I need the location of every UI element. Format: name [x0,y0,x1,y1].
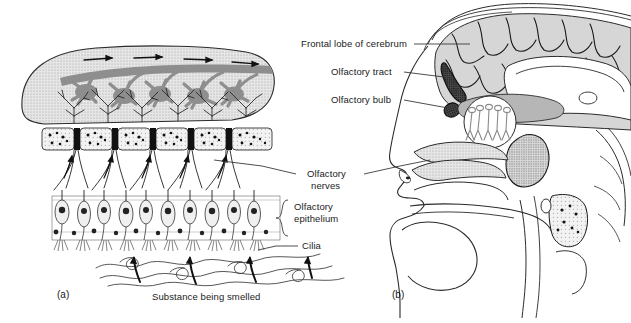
label-olfactory-epithelium-line1: Olfactory [294,201,333,212]
pharynx-wall [520,200,526,318]
cilia-group [54,240,264,251]
sphenoid-sinus [506,135,549,187]
panel-label-a: (a) [57,289,69,300]
nostril-opening [406,177,410,180]
ventricle [579,92,597,104]
figure-olfactory-system: Frontal lobe of cerebrum Olfactory tract… [0,0,631,323]
cervical-vertebrae [541,195,588,295]
nasal-conchae [412,142,508,200]
middle-concha [412,160,506,180]
tongue [402,222,477,290]
label-cilia: Cilia [302,240,321,251]
cribriform-plate [36,126,280,152]
panel-label-b: (b) [392,289,404,300]
label-olfactory-bulb: Olfactory bulb [331,94,391,105]
leader-olfactory-nerves-left-a [262,166,296,174]
leader-cilia-b [258,246,276,250]
panel-a-olfactory-bulb [22,46,344,286]
leader-olfactory-nerves-left-b [214,160,262,166]
leader-olfactory-nerves-right-a [364,166,400,174]
olfactory-nerve-bundles [54,150,240,190]
label-frontal-lobe: Frontal lobe of cerebrum [301,38,407,49]
label-olfactory-nerves-line1: Olfactory [307,168,346,179]
label-olfactory-nerves-line2: nerves [311,180,340,191]
olfactory-epithelium [52,190,280,251]
inferior-concha [414,182,508,200]
label-olfactory-epithelium-line2: epithelium [294,213,338,224]
magnified-nerve-circle [464,96,516,148]
label-substance-being-smelled: Substance being smelled [152,291,260,302]
leader-olfactory-bulb [404,100,448,108]
label-olfactory-tract: Olfactory tract [331,66,392,77]
